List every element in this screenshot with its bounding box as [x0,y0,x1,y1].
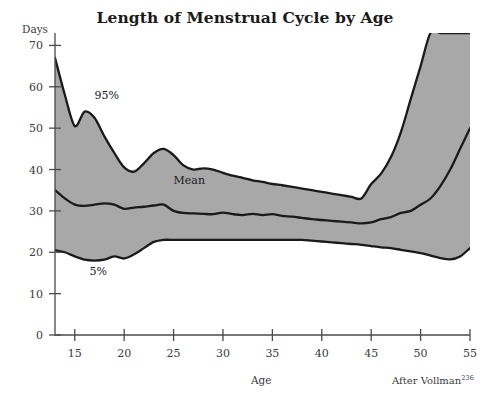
y-tick-label: 30 [29,205,43,218]
y-tick-label: 0 [36,329,43,342]
y-tick-label: 40 [29,164,43,177]
x-tick-label: 55 [463,347,477,360]
y-tick-label: 60 [29,81,43,94]
y-tick-label: 70 [29,39,43,52]
confidence-band-area [55,31,470,261]
x-tick-label: 45 [364,347,378,360]
y-tick-label: 20 [29,246,43,259]
chart-figure: Length of Menstrual Cycle by Age Days Ag… [0,0,490,413]
x-tick-label: 35 [265,347,279,360]
curve-label-5pct: 5% [90,265,107,278]
x-tick-label: 30 [216,347,230,360]
curve-label-95pct: 95% [95,89,119,102]
curve-label-mean: Mean [174,174,205,187]
x-axis-ticks: 152025303540455055 [68,329,477,360]
y-tick-label: 10 [29,288,43,301]
x-tick-label: 50 [414,347,428,360]
y-tick-label: 50 [29,122,43,135]
x-tick-label: 15 [68,347,82,360]
x-tick-label: 20 [117,347,131,360]
x-tick-label: 25 [167,347,181,360]
plot-area: 010203040506070 152025303540455055 95%Me… [0,0,490,413]
x-tick-label: 40 [315,347,329,360]
band-fill-group [55,31,470,261]
